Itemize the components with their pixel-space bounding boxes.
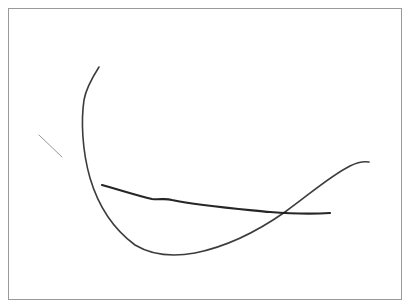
sketch-layer [0,0,409,307]
stroke-large-curve [82,67,369,255]
stroke-horizontal [102,185,330,214]
stroke-short-dash [39,135,62,157]
